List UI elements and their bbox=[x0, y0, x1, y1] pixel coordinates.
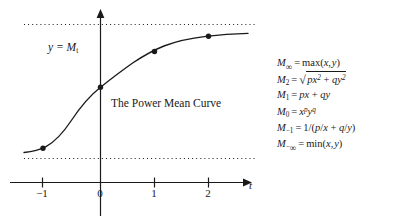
curve-label-subscript: t bbox=[76, 47, 78, 55]
y-axis-arrowhead bbox=[97, 9, 105, 18]
x-tick-label-0: 0 bbox=[86, 188, 114, 199]
power-mean-figure: y = Mt The Power Mean Curve −1 0 1 2 t M… bbox=[0, 0, 401, 220]
formula-m-2: M2=px2 + qy2 bbox=[277, 71, 401, 87]
power-mean-formula-list: M∞=max(x, y) M2=px2 + qy2 M1=px + qy M0=… bbox=[277, 55, 401, 152]
data-point-t-minus-1 bbox=[40, 146, 45, 151]
curve-label-text: y = M bbox=[48, 41, 76, 53]
data-point-t-2 bbox=[206, 34, 211, 39]
data-point-t-1 bbox=[152, 49, 157, 54]
chart-caption: The Power Mean Curve bbox=[111, 98, 221, 110]
curve-series-label: y = Mt bbox=[48, 42, 78, 54]
formula-m-infinity: M∞=max(x, y) bbox=[277, 55, 401, 71]
formula-m-minus-1: M−1=1/(p/x + q/y) bbox=[277, 120, 401, 136]
x-tick-label-2: 2 bbox=[194, 188, 222, 199]
x-axis-label: t bbox=[249, 180, 252, 191]
formula-m-0: M0=xpyq bbox=[277, 104, 401, 120]
x-tick-label-1: 1 bbox=[140, 188, 168, 199]
formula-m-1: M1=px + qy bbox=[277, 87, 401, 103]
formula-m-minus-infinity: M−∞=min(x, y) bbox=[277, 136, 401, 152]
x-tick-label-minus-1: −1 bbox=[28, 188, 56, 199]
data-point-t-0 bbox=[98, 85, 103, 90]
